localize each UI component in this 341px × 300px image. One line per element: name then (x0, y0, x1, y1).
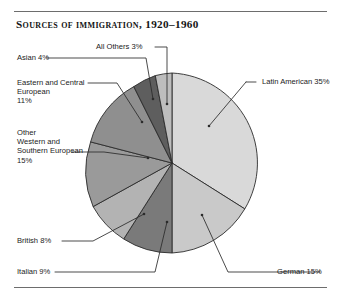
leader-dot-latin-american (208, 125, 211, 128)
slice-label-german: German 15% (277, 267, 322, 276)
slice-label-italian: Italian 9% (17, 267, 50, 276)
slice-label-british: British 8% (17, 236, 51, 245)
slice-label-eastern-central-european: Eastern and Central European 11% (17, 78, 85, 106)
leader-dot-all-others (166, 103, 169, 106)
slice-label-other-western-southern-european: Other Western and Southern European 15% (17, 128, 83, 165)
slice-label-latin-american: Latin American 35% (262, 77, 330, 86)
leader-dot-german (201, 214, 204, 217)
chart-figure: Sources of Immigration, 1920–1960 (0, 0, 341, 300)
slice-label-asian: Asian 4% (17, 53, 49, 62)
leader-dot-other-western-southern-european (147, 157, 150, 160)
leader-dot-british (143, 213, 146, 216)
leader-dot-asian (152, 98, 155, 101)
leader-dot-italian (166, 221, 169, 224)
bottom-rule (14, 287, 327, 288)
leader-dot-eastern-central-european (141, 121, 144, 124)
slice-label-all-others: All Others 3% (96, 42, 142, 51)
